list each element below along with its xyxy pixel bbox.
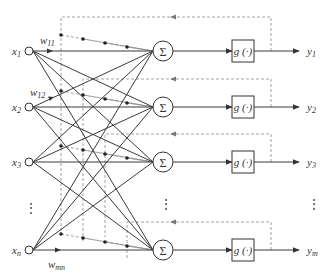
output-ellipsis: ⋮: [308, 197, 320, 211]
junction-dot: [103, 152, 107, 156]
feedback-arrow-icon: [170, 77, 176, 82]
activation-label-n1: g (·): [234, 45, 253, 58]
feedback-loop-n3: [105, 134, 271, 237]
junction-dot: [59, 232, 63, 236]
weight-arrow-icon: [47, 49, 53, 54]
sigma-icon: Σ: [160, 156, 167, 170]
sigma-icon: Σ: [160, 244, 167, 258]
sigma-icon: Σ: [160, 101, 167, 115]
input-node-x2: [25, 103, 33, 111]
activation-label-nm: g (·): [234, 244, 253, 257]
output-label-n3: y3: [306, 156, 316, 170]
output-label-n1: y1: [306, 45, 316, 59]
weight-label-w12: w12: [30, 86, 45, 100]
weight-label-w11: w11: [40, 34, 55, 48]
junction-dot: [81, 37, 85, 41]
weight-arrow-icon: [48, 97, 54, 102]
output-label-nm: ym: [306, 244, 318, 258]
input-node-x1: [25, 47, 33, 55]
junction-dot: [125, 101, 129, 105]
feedback-arrow-icon: [170, 132, 176, 137]
input-label-x2: x2: [11, 101, 21, 115]
junction-dot: [125, 156, 129, 160]
junction-dot: [59, 33, 63, 37]
input-node-xn: [25, 246, 33, 254]
junction-dot: [81, 148, 85, 152]
input-label-x1: x1: [11, 45, 21, 59]
junction-dot: [103, 240, 107, 244]
output-label-n2: y2: [306, 101, 316, 115]
activation-label-n3: g (·): [234, 156, 253, 169]
weight-connections: [33, 49, 153, 253]
nodes: [25, 40, 299, 261]
input-ellipsis: ⋮: [25, 201, 37, 215]
activation-label-n2: g (·): [234, 101, 253, 114]
input-label-x3: x3: [11, 156, 21, 170]
weight-arrow-icon: [55, 248, 61, 253]
recurrent-neural-network-diagram: x1x2x3xn⋮w11w12wmnΣg (·)y1Σg (·)y2Σg (·)…: [0, 0, 328, 278]
junction-dot: [103, 97, 107, 101]
input-node-x3: [25, 158, 33, 166]
feedback-arrow-icon: [170, 15, 176, 20]
junction-dot: [103, 41, 107, 45]
sigma-icon: Σ: [160, 45, 167, 59]
input-label-xn: xn: [11, 244, 21, 258]
weight-label-wmn: wmn: [48, 258, 65, 272]
junction-dot: [81, 236, 85, 240]
junction-dot: [59, 144, 63, 148]
junction-dot: [125, 45, 129, 49]
junction-dot: [125, 244, 129, 248]
junction-dot: [59, 89, 63, 93]
feedback-arrow-icon: [170, 220, 176, 225]
neuron-ellipsis: ⋮: [160, 197, 172, 211]
